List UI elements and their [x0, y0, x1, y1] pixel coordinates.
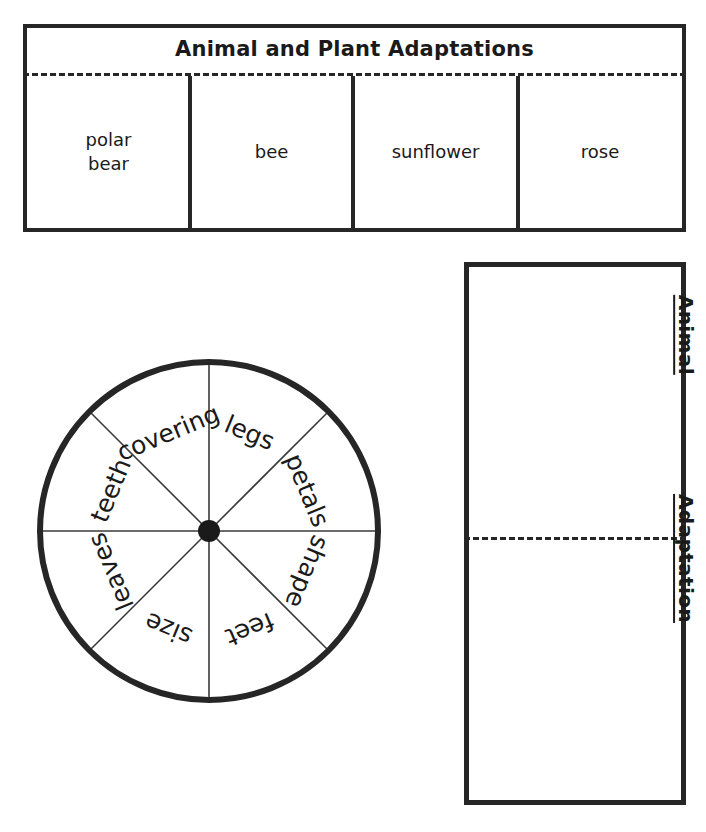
spinner-svg: legspetalsshapefeetsizeleavesteethcoveri… — [34, 356, 384, 706]
table-cell-label: rose — [581, 140, 619, 164]
table-cell-rose[interactable]: rose — [518, 76, 682, 228]
table-cell-bee[interactable]: bee — [190, 76, 353, 228]
fold-line-horizontal-right — [464, 537, 686, 540]
spinner-segment-label: feet — [221, 606, 278, 652]
spinner-segment-label: shape — [279, 531, 335, 612]
animal-adaptation-foldable: Animal Adaptation — [464, 262, 686, 805]
right-panel-label-animal: Animal — [673, 295, 696, 375]
spinner-hub — [198, 520, 220, 542]
table-cell-label: sunflower — [392, 140, 480, 164]
spinner-segment-label: covering — [113, 399, 224, 467]
spinner-segment-label: leaves — [82, 529, 140, 615]
page-title: Animal and Plant Adaptations — [27, 28, 682, 73]
table-row: polar bear bee sunflower rose — [27, 76, 682, 228]
table-cell-label: polar bear — [86, 128, 132, 177]
spinner-segment-label: size — [140, 607, 196, 652]
spinner-segment-label: legs — [220, 410, 278, 456]
adaptations-foldable-table: Animal and Plant Adaptations polar bear … — [23, 24, 686, 232]
right-panel-label-adaptation: Adaptation — [673, 494, 696, 623]
table-cell-polar-bear[interactable]: polar bear — [27, 76, 190, 228]
table-cell-label: bee — [255, 140, 289, 164]
table-cell-sunflower[interactable]: sunflower — [353, 76, 518, 228]
spinner-segment-label: petals — [279, 450, 335, 532]
spinner-segment-label: teeth — [85, 454, 137, 526]
adaptations-spinner-wheel[interactable]: legspetalsshapefeetsizeleavesteethcoveri… — [34, 356, 384, 706]
